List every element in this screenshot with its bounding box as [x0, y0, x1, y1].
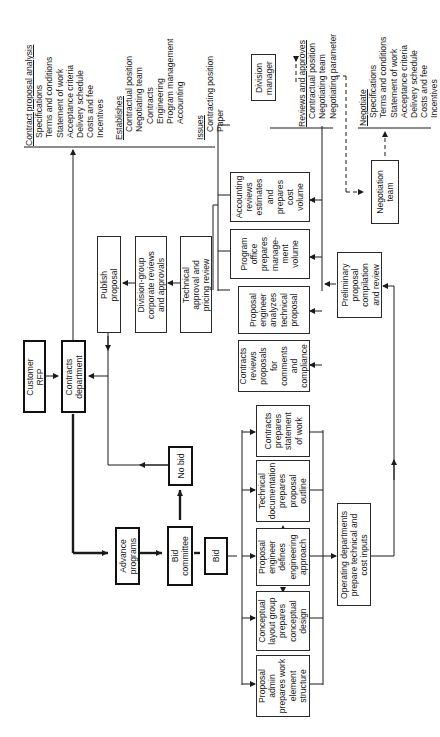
node-label: volume	[296, 183, 306, 211]
note-contract-proposal-analysis: Contract proposal analysis Specification…	[24, 45, 106, 146]
node-negotiation-team: Negotiation team	[371, 160, 399, 224]
note-heading: Issues	[195, 56, 205, 140]
node-label: of work	[293, 417, 303, 445]
node-label: Program	[239, 238, 249, 271]
note-negotiate: Negotiate Specifications Terms and condi…	[358, 37, 440, 126]
node-label: prepares	[278, 604, 288, 638]
node-label: element	[288, 671, 298, 702]
node-label: approval and	[191, 260, 201, 310]
note-item: Incentives	[429, 37, 439, 126]
node-label: ment	[280, 244, 290, 263]
node-conceptual-layout: Conceptual layout group prepares concept…	[256, 591, 310, 651]
node-label: programs	[128, 538, 138, 574]
node-label: engineer	[268, 540, 278, 573]
note-establishes: Establishes Contractual position Negotia…	[114, 38, 185, 140]
note-subitem: Accounting	[175, 38, 185, 140]
note-item: Specifications	[34, 45, 44, 146]
node-label: engineer	[259, 293, 269, 326]
node-label: manager	[264, 61, 274, 95]
node-label: Preliminary	[339, 264, 349, 307]
node-label: analyzes	[269, 293, 279, 327]
note-item: Negotiating team	[317, 34, 327, 127]
note-heading: Establishes	[114, 38, 124, 140]
node-label: admin	[268, 674, 278, 697]
node-technical-approval: Technical approval and pricing review	[180, 236, 212, 333]
node-label: committee	[180, 536, 190, 576]
node-technical-documentation: Technical documentation prepares proposa…	[256, 460, 310, 522]
node-customer-rfp: Customer RFP	[23, 340, 46, 413]
note-item: Terms and conditions	[44, 45, 54, 146]
node-label: Proposal	[257, 540, 267, 574]
node-label: Publish	[99, 270, 109, 298]
node-operating-departments: Operating departments prepare technical …	[337, 503, 371, 606]
node-label: Customer	[24, 358, 34, 395]
node-label: office	[250, 244, 260, 264]
node-contracts-prepares-sow: Contracts prepares statement of work	[256, 405, 310, 457]
note-item: Paper	[215, 56, 225, 140]
node-label: pricing review	[201, 258, 211, 311]
node-label: Bid	[211, 550, 221, 562]
node-bid-committee: Bid committee	[167, 526, 193, 586]
note-issues: Issues Contracting position Paper	[195, 56, 226, 140]
note-subitem: Engineering	[155, 38, 165, 140]
node-program-office: Program office prepares manage- ment vol…	[230, 229, 310, 279]
note-heading: Reviews and approves	[297, 34, 307, 127]
note-item: Costs and fee	[85, 45, 95, 146]
note-item: Costs and fee	[419, 37, 429, 126]
node-label: and review	[370, 264, 380, 306]
node-label: and	[289, 359, 299, 373]
node-accounting-reviews: Accounting reviews estimates and prepare…	[230, 172, 310, 222]
node-label: Proposal	[248, 293, 258, 327]
node-label: proposal	[288, 475, 298, 508]
node-label: Negotiation	[375, 170, 385, 213]
node-label: comments	[279, 346, 289, 386]
node-label: layout group	[268, 597, 278, 644]
node-label: prepares work	[278, 659, 288, 713]
note-subitem: Contracts	[145, 38, 155, 140]
node-label: Conceptual	[257, 599, 267, 642]
node-label: corporate reviews	[146, 251, 156, 319]
node-label: Division-group	[136, 257, 146, 312]
node-label: Technical	[181, 267, 191, 303]
node-label: Bid	[170, 550, 180, 562]
node-label: cost inputs	[359, 534, 369, 575]
node-division-manager: Division manager	[251, 54, 276, 101]
note-item: Negotiating parameter	[328, 34, 338, 127]
node-label: Division	[253, 62, 263, 92]
node-label: for	[269, 361, 279, 371]
node-label: technical	[279, 293, 289, 327]
node-label: conceptual	[288, 600, 298, 642]
node-label: engineering	[288, 535, 298, 580]
node-label: compliance	[300, 344, 310, 387]
node-contracts-reviews-proposals: Contracts reviews proposals for comments…	[238, 340, 310, 392]
node-label: defines	[278, 543, 288, 571]
node-label: estimates	[255, 179, 265, 216]
node-label: No bid	[175, 454, 185, 479]
note-item: Terms and conditions	[378, 37, 388, 126]
node-label: structure	[298, 669, 308, 702]
node-label: prepare technical and	[349, 513, 359, 596]
note-item: Specifications	[368, 37, 378, 126]
note-subitem: Program management	[165, 38, 175, 140]
node-label: Accounting	[234, 176, 244, 219]
note-item: Incentives	[95, 45, 105, 146]
node-label: Proposal	[257, 669, 267, 703]
node-label: manage-	[270, 237, 280, 271]
node-label: Contracts	[238, 348, 248, 385]
node-label: proposal	[109, 268, 119, 301]
note-item: Contractual position	[124, 38, 134, 140]
node-advance-programs: Advance programs	[115, 527, 140, 585]
node-label: Operating departments	[339, 511, 349, 599]
note-reviews-and-approves: Reviews and approves Contractual positio…	[297, 34, 338, 127]
node-publish-proposal: Publish proposal	[97, 236, 121, 333]
node-label: Contracts	[63, 358, 73, 395]
note-heading: Contract proposal analysis	[24, 45, 34, 146]
node-division-group-reviews: Division-group corporate reviews and app…	[135, 236, 167, 333]
node-label: Contracts	[263, 413, 273, 450]
node-label: volume	[290, 240, 300, 268]
node-label: cost	[285, 189, 295, 205]
note-heading: Negotiate	[358, 37, 368, 126]
node-bid: Bid	[204, 537, 228, 575]
node-label: outline	[298, 478, 308, 503]
